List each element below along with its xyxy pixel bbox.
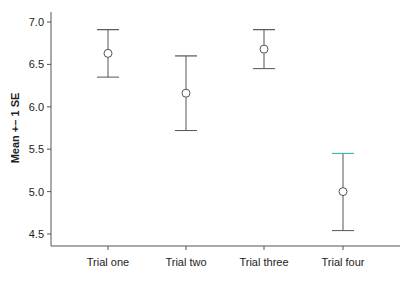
y-tick-label: 6.5 bbox=[29, 58, 44, 70]
error-bar-1 bbox=[97, 30, 119, 77]
mean-marker bbox=[104, 49, 112, 57]
error-bar-3 bbox=[253, 30, 275, 69]
error-bars bbox=[97, 30, 354, 231]
x-tick-label: Trial three bbox=[239, 256, 288, 268]
x-axis-ticks: Trial oneTrial twoTrial threeTrial four bbox=[87, 246, 365, 268]
mean-marker bbox=[260, 45, 268, 53]
y-tick-label: 5.5 bbox=[29, 143, 44, 155]
x-tick-label: Trial four bbox=[322, 256, 365, 268]
mean-marker bbox=[339, 188, 347, 196]
y-tick-label: 7.0 bbox=[29, 16, 44, 28]
y-tick-label: 5.0 bbox=[29, 186, 44, 198]
error-bar-chart: 4.55.05.56.06.57.0 Trial oneTrial twoTri… bbox=[0, 0, 416, 282]
y-axis-ticks: 4.55.05.56.06.57.0 bbox=[29, 16, 51, 240]
y-axis-label: Mean +– 1 SE bbox=[9, 93, 21, 164]
y-tick-label: 6.0 bbox=[29, 101, 44, 113]
x-tick-label: Trial two bbox=[165, 256, 206, 268]
mean-marker bbox=[182, 89, 190, 97]
x-tick-label: Trial one bbox=[87, 256, 129, 268]
error-bar-2 bbox=[175, 56, 197, 131]
error-bar-4 bbox=[332, 153, 354, 230]
axes bbox=[51, 12, 400, 246]
y-tick-label: 4.5 bbox=[29, 228, 44, 240]
